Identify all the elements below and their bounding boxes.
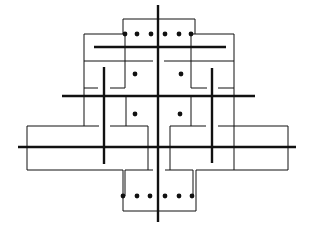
upper-left-dot (133, 72, 138, 77)
lower-left-dot (133, 112, 138, 117)
top-dot-1 (123, 32, 128, 37)
bottom-dot-6 (190, 194, 195, 199)
top-dot-3 (149, 32, 154, 37)
upper-right-dot (179, 72, 184, 77)
bottom-dot-5 (177, 194, 182, 199)
top-dot-5 (177, 32, 182, 37)
bottom-dot-4 (163, 194, 168, 199)
top-dot-2 (135, 32, 140, 37)
symmetric-line-diagram (0, 0, 313, 240)
background (0, 0, 313, 240)
lower-right-dot (178, 112, 183, 117)
diagram-canvas (0, 0, 313, 240)
bottom-dot-1 (121, 194, 126, 199)
bottom-dot-2 (135, 194, 140, 199)
top-dot-6 (189, 32, 194, 37)
bottom-dot-3 (148, 194, 153, 199)
top-dot-4 (163, 32, 168, 37)
